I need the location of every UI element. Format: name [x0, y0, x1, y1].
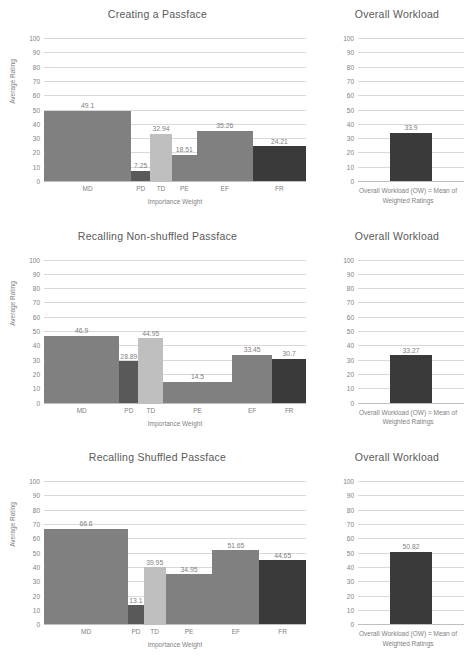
- x-tick-label: FR: [278, 628, 287, 635]
- x-tick-label: EF: [221, 185, 229, 192]
- ow-y-tick-label: 90: [347, 270, 354, 277]
- y-axis-title: Average Rating: [9, 263, 16, 343]
- y-tick-labels: 1009080706050403020100: [18, 260, 40, 403]
- ow-y-tick-label: 50: [347, 106, 354, 113]
- x-tick-label: PD: [136, 185, 145, 192]
- bar-series: 66.613.139.9534.9551.6544.65: [44, 481, 306, 624]
- ow-y-tick-label: 90: [347, 492, 354, 499]
- chart-title: Recalling Shuffled Passface: [0, 451, 315, 463]
- x-tick-label: FR: [285, 407, 294, 414]
- bar-md: [44, 529, 128, 624]
- y-tick-label: 90: [33, 49, 40, 56]
- grid-line: [358, 95, 464, 96]
- bar-pe: [163, 382, 232, 403]
- bar-value-label: 49.1: [70, 102, 106, 109]
- bar-ef: [197, 131, 253, 181]
- grid-line: [44, 403, 306, 404]
- bar-md: [44, 336, 119, 403]
- ow-y-tick-label: 10: [347, 606, 354, 613]
- grid-line: [358, 274, 464, 275]
- y-tick-label: 60: [33, 92, 40, 99]
- y-tick-label: 100: [29, 35, 40, 42]
- x-tick-label: EF: [232, 628, 240, 635]
- x-tick-label: PE: [193, 407, 202, 414]
- y-tick-label: 60: [33, 535, 40, 542]
- bar-ef: [232, 355, 273, 403]
- ow-y-tick-label: 30: [347, 135, 354, 142]
- y-tick-label: 80: [33, 506, 40, 513]
- ow-y-tick-label: 30: [347, 578, 354, 585]
- bar-value-label: 39.95: [137, 559, 173, 566]
- x-tick-label: PE: [185, 628, 194, 635]
- ow-y-tick-label: 50: [347, 549, 354, 556]
- ow-y-tick-label: 20: [347, 149, 354, 156]
- bar-value-label: 46.9: [64, 327, 100, 334]
- x-tick-label: MD: [83, 185, 93, 192]
- grid-line: [358, 302, 464, 303]
- bar-td: [144, 567, 166, 624]
- y-tick-label: 40: [33, 563, 40, 570]
- bar-pd: [128, 605, 144, 624]
- ow-plot-area: 33.27: [358, 260, 464, 403]
- x-tick-label: PE: [180, 185, 189, 192]
- y-tick-label: 20: [33, 592, 40, 599]
- bar-value-label: 51.65: [218, 542, 254, 549]
- grid-line: [358, 38, 464, 39]
- ow-value-label: 33.9: [393, 124, 429, 131]
- grid-line: [44, 181, 306, 182]
- ow-y-tick-label: 0: [350, 178, 354, 185]
- y-tick-label: 10: [33, 163, 40, 170]
- bar-pe: [166, 574, 213, 624]
- ow-y-tick-label: 80: [347, 285, 354, 292]
- bar-value-label: 14.5: [180, 373, 216, 380]
- grid-line: [358, 538, 464, 539]
- bar-td: [150, 134, 172, 181]
- ow-footnote: Overall Workload (OW) = Mean ofWeighted …: [338, 629, 476, 648]
- grid-line: [358, 260, 464, 261]
- ow-y-tick-label: 90: [347, 49, 354, 56]
- bar-td: [138, 338, 163, 402]
- bar-md: [44, 111, 131, 181]
- bar-pd: [131, 171, 150, 181]
- bar-value-label: 44.65: [265, 552, 301, 559]
- overall-workload-title: Overall Workload: [318, 8, 476, 20]
- bar-series: 46.928.8944.9514.533.4530.7: [44, 260, 306, 403]
- y-tick-label: 0: [36, 178, 40, 185]
- y-tick-label: 60: [33, 313, 40, 320]
- main-chart-2: Recalling Non-shuffled PassfaceAverage R…: [0, 222, 315, 444]
- y-tick-label: 10: [33, 606, 40, 613]
- y-tick-label: 0: [36, 399, 40, 406]
- ow-y-tick-label: 20: [347, 592, 354, 599]
- y-tick-label: 20: [33, 149, 40, 156]
- ow-y-tick-label: 30: [347, 356, 354, 363]
- ow-y-tick-label: 100: [343, 256, 354, 263]
- y-tick-label: 70: [33, 299, 40, 306]
- x-axis-title: Importance Weight: [44, 420, 306, 427]
- y-tick-label: 20: [33, 370, 40, 377]
- overall-workload-chart-3: Overall Workload100908070605040302010050…: [318, 443, 476, 665]
- y-tick-label: 90: [33, 492, 40, 499]
- y-tick-label: 40: [33, 342, 40, 349]
- ow-footnote-line1: Overall Workload (OW) = Mean of: [338, 629, 476, 639]
- y-tick-label: 30: [33, 578, 40, 585]
- ow-footnote-line1: Overall Workload (OW) = Mean of: [338, 186, 476, 196]
- x-tick-label: MD: [77, 407, 87, 414]
- grid-line: [358, 288, 464, 289]
- grid-line: [358, 317, 464, 318]
- bar-series: 49.17.2532.9418.5135.2624.21: [44, 38, 306, 181]
- y-tick-label: 70: [33, 77, 40, 84]
- ow-y-tick-label: 40: [347, 563, 354, 570]
- x-tick-labels: MDPDTDPEEFFR: [44, 628, 306, 640]
- ow-bar: [390, 355, 432, 403]
- ow-plot-area: 33.9: [358, 38, 464, 181]
- y-tick-label: 50: [33, 328, 40, 335]
- y-tick-labels: 1009080706050403020100: [18, 38, 40, 181]
- grid-line: [358, 495, 464, 496]
- bar-value-label: 32.94: [143, 125, 179, 132]
- ow-y-tick-label: 100: [343, 35, 354, 42]
- y-tick-label: 100: [29, 256, 40, 263]
- bar-pd: [119, 361, 138, 402]
- x-axis-title: Importance Weight: [44, 198, 306, 205]
- grid-line: [44, 624, 306, 625]
- ow-y-tick-label: 20: [347, 370, 354, 377]
